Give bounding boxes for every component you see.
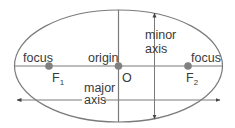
focus-right-label: focus — [191, 51, 221, 65]
ellipse-diagram: focus focus origin O F1 F2 minor axis ma… — [0, 0, 235, 128]
minor-axis-label-line2: axis — [145, 42, 167, 56]
f1-label: F1 — [52, 71, 65, 87]
origin-point-label: O — [122, 71, 132, 85]
f2-label: F2 — [186, 71, 199, 87]
minor-axis-label-line1: minor — [145, 28, 176, 42]
origin-label: origin — [88, 51, 119, 65]
focus-left-label: focus — [23, 51, 53, 65]
major-axis-label-line2: axis — [84, 93, 106, 107]
